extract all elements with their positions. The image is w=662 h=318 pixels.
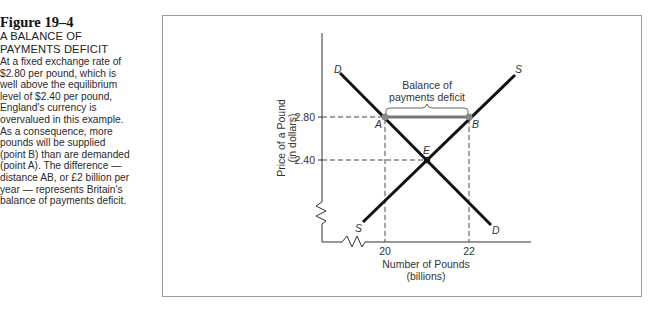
tick-label-22: 22 (463, 245, 475, 257)
x-axis (322, 236, 531, 247)
point-b-label: B (472, 118, 479, 130)
point-a-marker (382, 114, 389, 121)
point-a-label: A (374, 118, 382, 130)
y-axis (316, 33, 326, 242)
curve-label-s-top: S (515, 63, 522, 75)
point-e-marker (424, 157, 430, 163)
x-axis-title-line1: Number of Pounds (382, 258, 470, 270)
deficit-label-line2: payments deficit (389, 91, 465, 103)
curve-label-s-bottom: S (355, 222, 362, 234)
deficit-label-line1: Balance of (402, 79, 452, 91)
x-axis-title-line2: (billions) (406, 270, 445, 282)
deficit-brace-icon (386, 104, 468, 115)
curve-label-d-top: D (334, 63, 342, 75)
y-axis-title-line2: (in dollars) (286, 113, 298, 162)
tick-label-20: 20 (379, 245, 391, 257)
curve-label-d-bottom: D (492, 224, 500, 236)
supply-demand-chart: 2.80 2.40 20 22 Number of Pounds (billio… (0, 0, 662, 318)
point-e-label: E (423, 144, 431, 156)
